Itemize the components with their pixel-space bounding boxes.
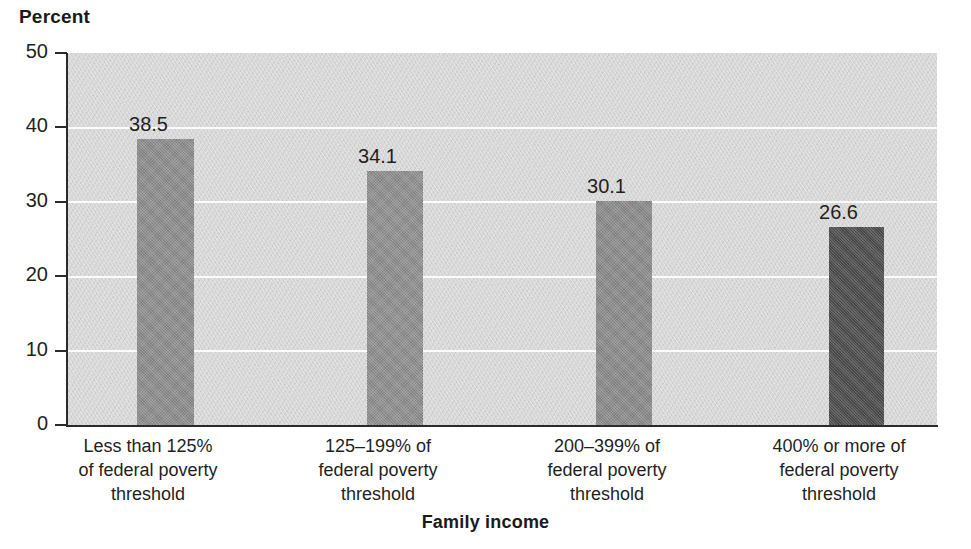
y-tick-label: 30 (0, 189, 48, 212)
y-tick-label: 0 (0, 412, 48, 435)
x-category-label-125-199: 125–199% of federal poverty threshold (268, 434, 488, 506)
y-axis-title: Percent (19, 6, 90, 28)
x-category-line: threshold (729, 482, 949, 506)
x-category-line: threshold (268, 482, 488, 506)
plot-background-texture (67, 53, 937, 425)
y-tick-label: 10 (0, 338, 48, 361)
y-tick-mark (55, 201, 67, 203)
bar-less-than-125 (137, 139, 194, 425)
bar-texture (367, 171, 423, 425)
x-category-label-200-399: 200–399% of federal poverty threshold (497, 434, 717, 506)
bar-value-less-than-125: 38.5 (107, 113, 190, 136)
bar-value-125-199: 34.1 (336, 145, 419, 168)
x-category-line: federal poverty (497, 458, 717, 482)
y-tick-mark (55, 350, 67, 352)
y-tick-mark (55, 275, 67, 277)
y-tick-label: 20 (0, 263, 48, 286)
gridline-20 (67, 276, 937, 278)
y-tick-label: 50 (0, 40, 48, 63)
bar-400-or-more (829, 227, 884, 425)
y-axis-line (66, 53, 68, 427)
x-category-label-400-or-more: 400% or more of federal poverty threshol… (729, 434, 949, 506)
bar-texture (137, 139, 194, 425)
bar-chart-figure: Percent 0 10 20 3 (0, 0, 971, 549)
y-tick-mark (55, 52, 67, 54)
bar-texture (829, 227, 884, 425)
y-tick-label: 40 (0, 114, 48, 137)
x-category-line: threshold (497, 482, 717, 506)
x-category-line: 200–399% of (497, 434, 717, 458)
x-category-line: federal poverty (268, 458, 488, 482)
x-axis-line (66, 425, 938, 427)
x-category-line: Less than 125% (38, 434, 258, 458)
bar-value-200-399: 30.1 (565, 175, 648, 198)
y-tick-mark (55, 126, 67, 128)
plot-area (67, 53, 937, 425)
bar-texture (596, 201, 652, 425)
x-category-line: federal poverty (729, 458, 949, 482)
bar-200-399 (596, 201, 652, 425)
y-tick-mark (55, 424, 67, 426)
x-category-line: 400% or more of (729, 434, 949, 458)
x-category-line: threshold (38, 482, 258, 506)
gridline-10 (67, 350, 937, 352)
bar-125-199 (367, 171, 423, 425)
gridline-40 (67, 127, 937, 129)
x-category-label-less-than-125: Less than 125% of federal poverty thresh… (38, 434, 258, 506)
x-axis-title: Family income (0, 512, 971, 533)
bar-value-400-or-more: 26.6 (797, 201, 880, 224)
x-category-line: of federal poverty (38, 458, 258, 482)
x-category-line: 125–199% of (268, 434, 488, 458)
